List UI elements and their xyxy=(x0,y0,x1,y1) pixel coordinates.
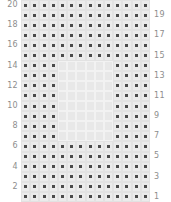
grid-pin-cell[interactable] xyxy=(86,141,95,151)
grid-pin-cell[interactable] xyxy=(49,0,58,10)
grid-pin-cell[interactable] xyxy=(58,51,67,61)
grid-pin-cell[interactable] xyxy=(30,30,39,40)
grid-pin-cell[interactable] xyxy=(132,111,141,121)
grid-pin-cell[interactable] xyxy=(86,172,95,182)
grid-pin-cell[interactable] xyxy=(141,91,150,101)
grid-pin-cell[interactable] xyxy=(113,111,122,121)
grid-empty-cell[interactable] xyxy=(95,121,104,131)
grid-pin-cell[interactable] xyxy=(122,20,131,30)
grid-pin-cell[interactable] xyxy=(113,20,122,30)
grid-empty-cell[interactable] xyxy=(67,121,76,131)
grid-pin-cell[interactable] xyxy=(141,0,150,10)
grid-empty-cell[interactable] xyxy=(58,81,67,91)
grid-pin-cell[interactable] xyxy=(132,30,141,40)
grid-pin-cell[interactable] xyxy=(86,40,95,50)
grid-pin-cell[interactable] xyxy=(132,0,141,10)
grid-pin-cell[interactable] xyxy=(76,40,85,50)
grid-pin-cell[interactable] xyxy=(113,81,122,91)
grid-pin-cell[interactable] xyxy=(21,10,30,20)
grid-pin-cell[interactable] xyxy=(49,111,58,121)
grid-empty-cell[interactable] xyxy=(104,111,113,121)
grid-pin-cell[interactable] xyxy=(21,121,30,131)
grid-pin-cell[interactable] xyxy=(113,91,122,101)
grid-pin-cell[interactable] xyxy=(86,182,95,192)
grid-pin-cell[interactable] xyxy=(58,20,67,30)
grid-pin-cell[interactable] xyxy=(113,61,122,71)
grid-pin-cell[interactable] xyxy=(141,20,150,30)
grid-pin-cell[interactable] xyxy=(21,182,30,192)
grid-pin-cell[interactable] xyxy=(104,192,113,202)
grid-pin-cell[interactable] xyxy=(49,101,58,111)
grid-pin-cell[interactable] xyxy=(122,51,131,61)
grid-pin-cell[interactable] xyxy=(141,162,150,172)
grid-pin-cell[interactable] xyxy=(49,162,58,172)
grid-empty-cell[interactable] xyxy=(104,71,113,81)
grid-pin-cell[interactable] xyxy=(58,30,67,40)
grid-pin-cell[interactable] xyxy=(132,162,141,172)
grid-pin-cell[interactable] xyxy=(76,20,85,30)
grid-pin-cell[interactable] xyxy=(122,182,131,192)
grid-pin-cell[interactable] xyxy=(104,30,113,40)
grid-empty-cell[interactable] xyxy=(67,101,76,111)
grid-pin-cell[interactable] xyxy=(67,182,76,192)
grid-empty-cell[interactable] xyxy=(67,131,76,141)
grid-empty-cell[interactable] xyxy=(86,91,95,101)
grid-pin-cell[interactable] xyxy=(21,111,30,121)
grid-pin-cell[interactable] xyxy=(49,71,58,81)
grid-pin-cell[interactable] xyxy=(141,121,150,131)
grid-pin-cell[interactable] xyxy=(39,182,48,192)
grid-pin-cell[interactable] xyxy=(86,0,95,10)
grid-pin-cell[interactable] xyxy=(132,10,141,20)
grid-empty-cell[interactable] xyxy=(67,111,76,121)
grid-pin-cell[interactable] xyxy=(95,20,104,30)
grid-empty-cell[interactable] xyxy=(95,131,104,141)
grid-pin-cell[interactable] xyxy=(21,71,30,81)
grid-pin-cell[interactable] xyxy=(67,10,76,20)
grid-pin-cell[interactable] xyxy=(49,141,58,151)
grid-pin-cell[interactable] xyxy=(49,51,58,61)
grid-pin-cell[interactable] xyxy=(141,30,150,40)
grid-empty-cell[interactable] xyxy=(58,91,67,101)
grid-pin-cell[interactable] xyxy=(39,91,48,101)
grid-pin-cell[interactable] xyxy=(122,131,131,141)
grid-pin-cell[interactable] xyxy=(132,40,141,50)
grid-pin-cell[interactable] xyxy=(49,40,58,50)
grid-empty-cell[interactable] xyxy=(104,101,113,111)
grid-pin-cell[interactable] xyxy=(21,192,30,202)
grid-pin-cell[interactable] xyxy=(113,10,122,20)
grid-empty-cell[interactable] xyxy=(95,71,104,81)
grid-empty-cell[interactable] xyxy=(67,61,76,71)
grid-pin-cell[interactable] xyxy=(104,162,113,172)
grid-pin-cell[interactable] xyxy=(122,162,131,172)
grid-pin-cell[interactable] xyxy=(76,192,85,202)
grid-pin-cell[interactable] xyxy=(122,61,131,71)
grid-pin-cell[interactable] xyxy=(21,101,30,111)
grid-pin-cell[interactable] xyxy=(122,81,131,91)
grid-pin-cell[interactable] xyxy=(104,20,113,30)
grid-pin-cell[interactable] xyxy=(86,152,95,162)
grid-pin-cell[interactable] xyxy=(49,131,58,141)
grid-pin-cell[interactable] xyxy=(30,51,39,61)
grid-empty-cell[interactable] xyxy=(86,101,95,111)
grid-pin-cell[interactable] xyxy=(39,61,48,71)
grid-pin-cell[interactable] xyxy=(30,172,39,182)
grid-pin-cell[interactable] xyxy=(30,131,39,141)
grid-pin-cell[interactable] xyxy=(76,172,85,182)
grid-pin-cell[interactable] xyxy=(58,172,67,182)
grid-pin-cell[interactable] xyxy=(30,20,39,30)
grid-pin-cell[interactable] xyxy=(141,172,150,182)
grid-pin-cell[interactable] xyxy=(49,152,58,162)
grid-pin-cell[interactable] xyxy=(104,152,113,162)
grid-pin-cell[interactable] xyxy=(30,101,39,111)
grid-pin-cell[interactable] xyxy=(58,162,67,172)
grid-pin-cell[interactable] xyxy=(49,81,58,91)
grid-pin-cell[interactable] xyxy=(122,192,131,202)
grid-empty-cell[interactable] xyxy=(76,131,85,141)
grid-pin-cell[interactable] xyxy=(86,162,95,172)
grid-empty-cell[interactable] xyxy=(58,121,67,131)
grid-pin-cell[interactable] xyxy=(39,0,48,10)
grid-pin-cell[interactable] xyxy=(67,152,76,162)
grid-pin-cell[interactable] xyxy=(76,141,85,151)
grid-pin-cell[interactable] xyxy=(49,61,58,71)
grid-pin-cell[interactable] xyxy=(30,91,39,101)
